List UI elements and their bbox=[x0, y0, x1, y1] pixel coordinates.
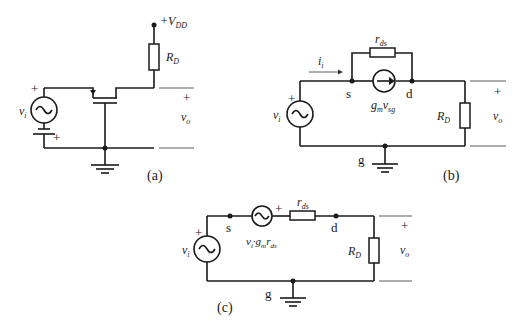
plus-sign: + bbox=[401, 218, 408, 233]
plus-sign: + bbox=[31, 81, 38, 96]
panel-b-small-signal-model: rds gmvsg s d ii + vi RD g + v bbox=[273, 32, 506, 184]
resistor-rds bbox=[290, 211, 315, 220]
vi-label: vi bbox=[182, 243, 190, 259]
node-s-label: s bbox=[226, 220, 231, 235]
gm-vsg-label: gmvsg bbox=[371, 98, 395, 114]
resistor-rds bbox=[370, 48, 395, 57]
vdd-label: +VDD bbox=[160, 14, 187, 30]
plus-sign: + bbox=[183, 90, 190, 105]
vo-label: vo bbox=[181, 110, 190, 126]
node-d-label: d bbox=[406, 86, 413, 101]
rds-label: rds bbox=[375, 32, 387, 48]
rd-label: RD bbox=[347, 244, 361, 260]
resistor-rd bbox=[149, 44, 159, 70]
node-d-label: d bbox=[331, 220, 338, 235]
dep-source-label: vi·gmrds bbox=[246, 235, 277, 250]
node-g-label: g bbox=[358, 152, 365, 167]
node-d bbox=[334, 214, 339, 219]
plus-sign: + bbox=[494, 84, 501, 99]
vi-label: vi bbox=[19, 104, 27, 120]
plus-sign: + bbox=[275, 201, 282, 216]
rd-label: RD bbox=[436, 109, 450, 125]
plus-sign: + bbox=[195, 225, 202, 240]
vo-label: vo bbox=[400, 243, 409, 259]
caption-c: (c) bbox=[217, 300, 233, 316]
vi-label: vi bbox=[273, 108, 281, 124]
source-arrow-icon bbox=[90, 90, 96, 95]
node-g-label: g bbox=[265, 286, 272, 301]
rd-label: RD bbox=[165, 50, 179, 66]
caption-a: (a) bbox=[147, 168, 163, 184]
node-s-label: s bbox=[346, 86, 351, 101]
node-s bbox=[228, 214, 233, 219]
panel-c-thevenin-model: + rds s d vi·gmrds + vi RD g + vo (c) bbox=[182, 195, 412, 316]
plus-sign: + bbox=[288, 91, 295, 106]
current-arrow-icon bbox=[338, 70, 343, 75]
circuit-figure: +VDD RD + vi + + vo bbox=[0, 0, 521, 330]
resistor-rd bbox=[460, 103, 470, 128]
plus-sign: + bbox=[53, 130, 60, 145]
caption-b: (b) bbox=[443, 168, 460, 184]
vo-label: vo bbox=[493, 109, 502, 125]
rds-label: rds bbox=[297, 195, 309, 211]
ii-label: ii bbox=[318, 54, 324, 70]
resistor-rd bbox=[369, 238, 379, 263]
panel-a-common-gate-amplifier: +VDD RD + vi + + vo bbox=[19, 14, 194, 184]
